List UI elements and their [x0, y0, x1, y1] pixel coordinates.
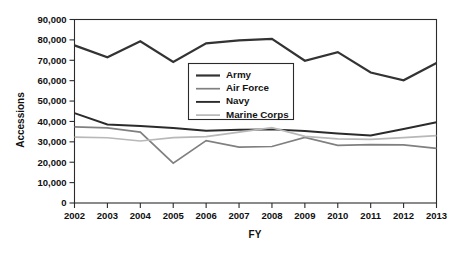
y-tick-label: 70,000	[37, 55, 66, 66]
x-tick-label: 2006	[196, 210, 217, 221]
x-axis-ticks	[75, 203, 437, 208]
y-axis-title: Accessions	[15, 92, 26, 148]
y-tick-label: 30,000	[37, 136, 66, 147]
legend-label: Navy	[226, 95, 250, 106]
x-tick-label: 2008	[261, 210, 282, 221]
x-tick-label: 2010	[327, 210, 348, 221]
legend-label: Army	[226, 69, 252, 80]
x-tick-label: 2003	[97, 210, 118, 221]
y-tick-label: 50,000	[37, 95, 66, 106]
line-chart-figure: 010,00020,00030,00040,00050,00060,00070,…	[0, 0, 457, 253]
x-axis-title: FY	[249, 229, 262, 240]
series-line	[75, 128, 437, 141]
x-axis-tick-labels: 2002200320042005200620072008200920102011…	[64, 210, 447, 221]
y-tick-label: 60,000	[37, 75, 66, 86]
y-tick-label: 0	[61, 197, 66, 208]
x-tick-label: 2002	[64, 210, 85, 221]
y-tick-label: 10,000	[37, 177, 66, 188]
legend-label: Marine Corps	[226, 109, 289, 120]
y-tick-label: 20,000	[37, 157, 66, 168]
y-axis-tick-labels: 010,00020,00030,00040,00050,00060,00070,…	[37, 14, 66, 209]
legend: ArmyAir ForceNavyMarine Corps	[189, 64, 294, 120]
y-tick-label: 80,000	[37, 34, 66, 45]
x-tick-label: 2007	[228, 210, 249, 221]
y-axis-ticks	[70, 20, 75, 204]
legend-label: Air Force	[226, 82, 270, 93]
x-tick-label: 2013	[426, 210, 447, 221]
chart-canvas: 010,00020,00030,00040,00050,00060,00070,…	[0, 0, 457, 253]
y-tick-label: 90,000	[37, 14, 66, 25]
x-tick-label: 2004	[130, 210, 152, 221]
x-tick-label: 2011	[360, 210, 381, 221]
x-tick-label: 2009	[294, 210, 315, 221]
x-tick-label: 2012	[393, 210, 414, 221]
x-tick-label: 2005	[163, 210, 185, 221]
y-tick-label: 40,000	[37, 116, 66, 127]
